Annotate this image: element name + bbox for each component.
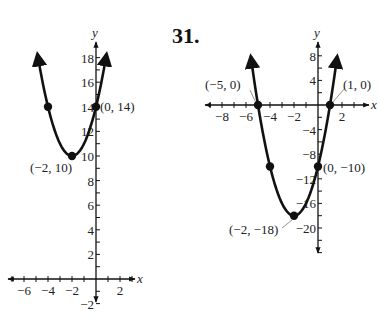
- data-point: [44, 103, 52, 111]
- y-ticks: −224681012141618: [80, 51, 100, 312]
- data-point: [314, 162, 322, 170]
- left-parabola-graph: −6−4−22 −224681012141618 x y (0, 14) (−2…: [8, 25, 143, 312]
- y-tick-label: 8: [88, 174, 95, 189]
- x-tick-label: −4: [263, 109, 277, 124]
- data-point: [92, 103, 100, 111]
- y-tick-label: −4: [302, 123, 316, 138]
- figure-canvas: 31. −6−4−22 −224681012141618 x y (0, 14)…: [0, 0, 379, 325]
- x-tick-label: 2: [339, 109, 346, 124]
- point-label-vertex: (−2, −18): [229, 222, 278, 237]
- x-tick-label: −4: [41, 283, 55, 298]
- y-tick-label: 4: [88, 223, 95, 238]
- data-point: [326, 101, 334, 109]
- point-label-y-intercept: (0, 14): [100, 99, 135, 114]
- point-label-x-intercept-left: (−5, 0): [205, 77, 241, 92]
- y-tick-label: −8: [302, 147, 316, 162]
- point-label-vertex: (−2, 10): [30, 160, 72, 175]
- y-tick-label: 16: [81, 75, 95, 90]
- y-tick-label: 6: [88, 198, 95, 213]
- y-tick-label: 4: [310, 73, 317, 88]
- y-tick-label: −2: [80, 297, 94, 312]
- x-tick-label: −6: [239, 109, 253, 124]
- x-tick-label: −8: [215, 109, 229, 124]
- right-parabola-graph: −8−6−4−22 84−4−8−12−16−20 x y (−5, 0) (1…: [205, 25, 377, 253]
- problem-number: 31.: [172, 23, 200, 48]
- y-tick-label: 10: [81, 149, 94, 164]
- y-tick-label: 8: [310, 49, 317, 64]
- data-point: [266, 162, 274, 170]
- x-tick-label: −2: [65, 283, 79, 298]
- point-label-x-intercept-right: (1, 0): [343, 77, 371, 92]
- data-point: [254, 101, 262, 109]
- graphs-svg: 31. −6−4−22 −224681012141618 x y (0, 14)…: [0, 0, 379, 325]
- y-axis-label: y: [90, 25, 98, 40]
- x-axis-label: x: [370, 97, 377, 112]
- y-tick-label: 2: [88, 247, 95, 262]
- x-tick-label: 2: [117, 283, 124, 298]
- data-point: [68, 152, 76, 160]
- data-point: [290, 212, 298, 220]
- y-axis-label: y: [312, 25, 320, 40]
- x-axis-label: x: [136, 271, 143, 286]
- x-tick-label: −6: [17, 283, 31, 298]
- y-tick-label: −20: [296, 221, 316, 236]
- parabola-curve: [251, 56, 337, 215]
- point-label-y-intercept: (0, −10): [323, 160, 365, 175]
- y-tick-label: 18: [81, 51, 94, 66]
- x-tick-label: −2: [287, 109, 301, 124]
